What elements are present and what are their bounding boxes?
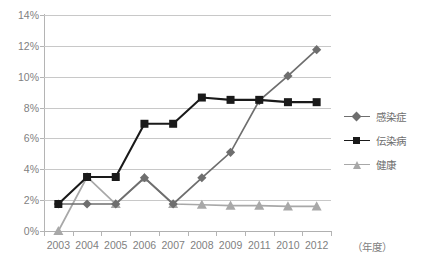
data-point-marker: [284, 98, 292, 106]
data-point-marker: [313, 98, 321, 106]
x-axis-tick-label: 2011: [248, 239, 271, 251]
series-line: [58, 50, 316, 204]
y-axis-tick-label: 0%: [24, 225, 39, 237]
x-axis-tick-mark: [159, 231, 160, 236]
x-axis-tick-mark: [101, 231, 102, 236]
x-axis-tick-mark: [188, 231, 189, 236]
y-axis-tick-label: 8%: [24, 102, 39, 114]
x-axis-tick-mark: [216, 231, 217, 236]
y-axis-tick-label: 10%: [18, 71, 39, 83]
x-axis-tick-label: 2009: [219, 239, 242, 251]
data-point-marker: [140, 120, 148, 128]
data-point-marker: [53, 226, 63, 235]
data-point-marker: [255, 96, 263, 104]
x-axis-tick-mark: [302, 231, 303, 236]
x-axis-unit-label: （年度）: [352, 239, 392, 254]
chart-legend: 感染症 伝染病 健康: [344, 104, 422, 176]
diamond-marker-icon: [344, 110, 370, 122]
plot-area: 0%2%4%6%8%10%12%14%: [44, 15, 331, 231]
x-axis-tick-label: 2010: [276, 239, 299, 251]
data-point-marker: [198, 94, 206, 102]
data-point-marker: [169, 120, 177, 128]
x-axis-tick-label: 2005: [104, 239, 127, 251]
y-axis-tick-label: 12%: [18, 40, 39, 52]
x-axis-tick-label: 2006: [133, 239, 156, 251]
legend-item-densenbyo[interactable]: 伝染病: [344, 128, 422, 152]
x-axis-tick-mark: [274, 231, 275, 236]
x-axis-tick-mark: [73, 231, 74, 236]
x-axis-tick-label: 2012: [305, 239, 328, 251]
x-axis-tick-label: 2007: [161, 239, 184, 251]
legend-item-label: 伝染病: [376, 133, 406, 148]
legend-item-kenko[interactable]: 健康: [344, 152, 422, 176]
x-axis-tick-mark: [130, 231, 131, 236]
series-line: [58, 98, 316, 204]
data-point-marker: [54, 200, 62, 208]
y-axis-tick-label: 6%: [24, 132, 39, 144]
y-axis-tick-label: 4%: [24, 163, 39, 175]
legend-item-label: 健康: [376, 157, 396, 172]
data-point-marker: [82, 199, 91, 208]
y-axis-tick-label: 2%: [24, 194, 39, 206]
x-axis-tick-mark: [44, 231, 45, 236]
legend-item-kansensho[interactable]: 感染症: [344, 104, 422, 128]
x-axis-tick-label: 2003: [47, 239, 70, 251]
x-axis-tick-mark: [245, 231, 246, 236]
data-point-marker: [112, 173, 120, 181]
chart-container: 0%2%4%6%8%10%12%14% 20032004200520062007…: [0, 0, 422, 262]
triangle-marker-icon: [344, 158, 370, 170]
data-point-marker: [227, 96, 235, 104]
data-point-marker: [83, 173, 91, 181]
legend-item-label: 感染症: [376, 109, 406, 124]
y-axis-tick-label: 14%: [18, 9, 39, 21]
x-axis-tick-label: 2008: [190, 239, 213, 251]
x-axis-tick-mark: [331, 231, 332, 236]
x-axis-tick-label: 2004: [75, 239, 98, 251]
series-layer: [44, 15, 331, 231]
square-marker-icon: [344, 134, 370, 146]
